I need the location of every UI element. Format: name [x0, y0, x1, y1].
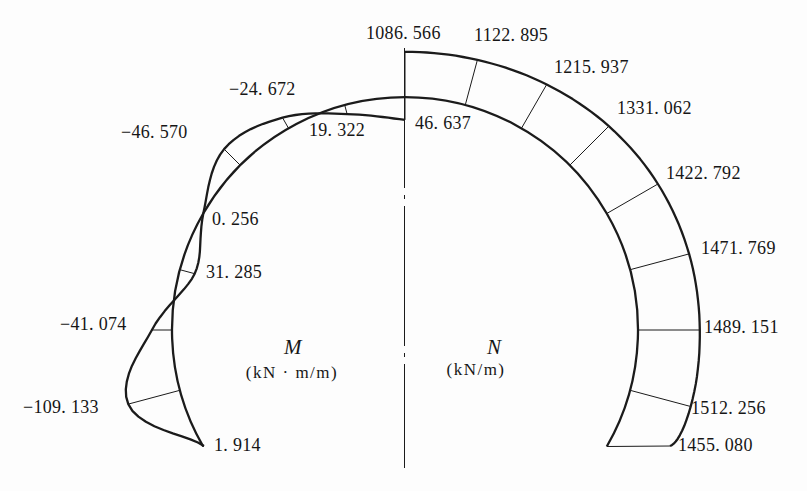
axial-end-tick: [607, 446, 670, 447]
axial-station-tick: [607, 184, 658, 214]
moment-value-label: −46. 570: [121, 123, 188, 142]
axial-station-tick: [630, 254, 689, 270]
axial-value-label: 1471. 769: [701, 239, 776, 258]
axial-station-tick: [630, 390, 691, 406]
axial-value-label: 1215. 937: [554, 58, 629, 77]
moment-value-label: 31. 285: [206, 263, 262, 282]
moment-station-tick: [224, 149, 240, 165]
axial-value-label: 1331. 062: [617, 99, 692, 118]
axial-value-label: 1086. 566: [366, 24, 441, 43]
moment-end-tick: [203, 446, 204, 447]
axial-station-tick: [465, 60, 477, 105]
moment-value-label: 46. 637: [415, 114, 471, 133]
moment-station-tick: [283, 118, 289, 129]
axial-symbol: N: [487, 335, 501, 360]
axial-station-tick: [570, 126, 609, 165]
moment-symbol: M: [284, 335, 302, 360]
moment-value-label: −109. 133: [23, 398, 99, 417]
moment-curve: [126, 113, 405, 446]
figure-canvas: 46. 63719. 322−24. 672−46. 5700. 25631. …: [0, 0, 807, 491]
force-diagram-svg: [0, 0, 807, 491]
axial-value-label: 1455. 080: [678, 436, 753, 455]
axial-station-tick: [522, 85, 547, 129]
axial-value-label: 1489. 151: [704, 318, 779, 337]
moment-unit: (kN · m/m): [246, 363, 338, 383]
moment-value-label: −24. 672: [229, 80, 296, 99]
moment-station-tick: [128, 390, 180, 404]
moment-value-label: 0. 256: [212, 210, 259, 229]
axial-value-label: 1122. 895: [474, 26, 548, 45]
moment-value-label: −41. 074: [60, 315, 127, 334]
axial-value-label: 1422. 792: [666, 164, 741, 183]
axial-unit: (kN/m): [446, 360, 505, 380]
axial-value-label: 1512. 256: [691, 399, 766, 418]
moment-value-label: 1. 914: [214, 436, 261, 455]
moment-station-tick: [345, 105, 347, 114]
moment-station-tick: [180, 270, 195, 274]
moment-value-label: 19. 322: [309, 121, 365, 140]
